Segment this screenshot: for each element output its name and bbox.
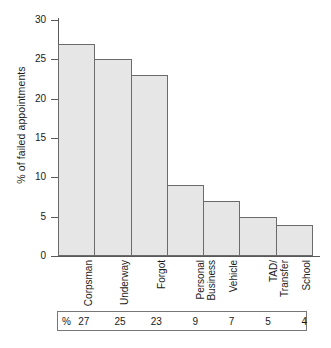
y-tick-label-0: 0 (0, 251, 46, 261)
y-tick-label-30: 30 (0, 15, 46, 25)
plot-area (58, 20, 312, 256)
y-tick-5 (51, 217, 58, 218)
y-tick-label-10: 10 (0, 172, 46, 182)
y-tick-25 (51, 59, 58, 60)
table-cell-personal-business: 9 (168, 315, 198, 329)
x-axis-line (57, 256, 320, 257)
y-tick-label-15: 15 (0, 133, 46, 143)
y-tick-label-5: 5 (0, 212, 46, 222)
bar-school (276, 225, 313, 256)
bar-underway (94, 59, 132, 256)
table-cell-forgot: 23 (132, 315, 162, 329)
y-tick-10 (51, 177, 58, 178)
table-cell-corpsman: 27 (59, 315, 89, 329)
table-cell-vehicle: 7 (204, 315, 234, 329)
data-table: %2725239754 (57, 311, 307, 331)
y-tick-label-20: 20 (0, 94, 46, 104)
table-cell-underway: 25 (96, 315, 126, 329)
y-tick-0 (51, 256, 58, 257)
bar-forgot (131, 75, 168, 256)
bar-chart-figure: % of failed appointments 051015202530 Co… (0, 0, 331, 348)
table-cell-tad-transfer: 5 (241, 315, 271, 329)
table-cell-school: 4 (277, 315, 307, 329)
bar-corpsman (58, 44, 95, 256)
y-tick-label-25: 25 (0, 54, 46, 64)
bar-tad-transfer (239, 217, 277, 256)
y-tick-15 (51, 138, 58, 139)
y-tick-30 (51, 20, 58, 21)
y-tick-20 (51, 99, 58, 100)
bar-vehicle (203, 201, 240, 256)
bar-personal-business (167, 185, 204, 256)
